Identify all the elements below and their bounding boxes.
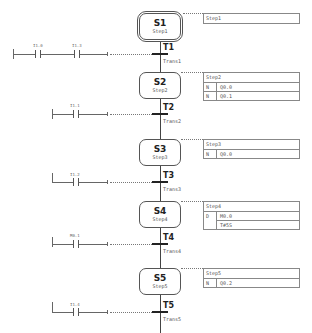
- action-row-group: D M0.0 T#5S: [204, 212, 299, 229]
- transition-name: Trans5: [163, 316, 181, 322]
- action-time: T#5S: [217, 221, 299, 229]
- ladder-wire: [52, 114, 107, 115]
- transition-bar-t3[interactable]: [152, 181, 168, 183]
- action-header: Step3: [204, 140, 299, 150]
- ladder-end: [107, 112, 108, 116]
- action-operand: Q0.1: [217, 92, 232, 100]
- action-block-s3[interactable]: Step3 N Q0.0: [203, 139, 300, 159]
- transition-name: Trans1: [163, 58, 181, 64]
- step-id: S2: [140, 77, 180, 87]
- action-block-s1[interactable]: Step1: [203, 13, 300, 24]
- transition-connector: [110, 312, 152, 313]
- step-name: Step2: [140, 87, 180, 94]
- action-header: Step4: [204, 202, 299, 212]
- action-row: N Q0.0: [204, 83, 299, 92]
- ladder-wire: [52, 182, 107, 183]
- action-header: Step5: [204, 269, 299, 279]
- action-block-s5[interactable]: Step5 N Q0.2: [203, 268, 300, 288]
- transition-id: T5: [163, 301, 174, 310]
- contact-label: I1.0: [33, 43, 43, 48]
- action-block-s4[interactable]: Step4 D M0.0 T#5S: [203, 201, 300, 230]
- action-connector: [181, 201, 203, 202]
- action-qualifier: N: [204, 92, 217, 100]
- contact-label: I1.1: [70, 103, 80, 108]
- transition-name: Trans4: [163, 248, 181, 254]
- ladder-end: [107, 310, 108, 314]
- contact-no[interactable]: [73, 178, 79, 186]
- action-row: N Q0.2: [204, 279, 299, 287]
- step-name: Step4: [140, 216, 180, 223]
- contact-no[interactable]: [73, 110, 79, 118]
- contact-label: M0.1: [70, 233, 80, 238]
- action-qualifier: N: [204, 150, 217, 158]
- transition-bar-t1[interactable]: [152, 53, 168, 55]
- transition-id: T3: [163, 171, 174, 180]
- action-operand: Q0.0: [217, 150, 232, 158]
- ladder-end: [107, 52, 108, 56]
- ladder-wire: [13, 54, 107, 55]
- action-connector: [181, 268, 203, 269]
- transition-name: Trans3: [163, 186, 181, 192]
- step-name: Step3: [140, 154, 180, 161]
- step-s2[interactable]: S2 Step2: [139, 72, 181, 99]
- action-connector: [181, 72, 203, 73]
- contact-label: I1.2: [70, 172, 80, 177]
- transition-connector: [110, 54, 152, 55]
- transition-name: Trans2: [163, 118, 181, 124]
- ladder-end: [107, 242, 108, 246]
- transition-connector: [110, 244, 152, 245]
- contact-label: I1.4: [70, 302, 80, 307]
- transition-bar-t5[interactable]: [152, 311, 168, 313]
- ladder-wire: [52, 312, 107, 313]
- transition-id: T4: [163, 233, 174, 242]
- transition-connector: [110, 182, 152, 183]
- step-id: S4: [140, 206, 180, 216]
- step-id: S3: [140, 144, 180, 154]
- step-name: Step1: [140, 28, 180, 35]
- action-qualifier: N: [204, 279, 217, 287]
- transition-id: T2: [163, 103, 174, 112]
- step-s5[interactable]: S5 Step5: [139, 268, 181, 295]
- action-header: Step2: [204, 73, 299, 83]
- step-s4[interactable]: S4 Step4: [139, 201, 181, 228]
- contact-no[interactable]: [35, 50, 41, 58]
- action-header: Step1: [204, 14, 299, 23]
- action-row: N Q0.0: [204, 150, 299, 158]
- step-s1[interactable]: S1 Step1: [139, 13, 181, 40]
- action-row: N Q0.1: [204, 92, 299, 100]
- contact-label: I1.3: [72, 43, 82, 48]
- transition-id: T1: [163, 43, 174, 52]
- action-operand: Q0.2: [217, 279, 232, 287]
- transition-bar-t4[interactable]: [152, 243, 168, 245]
- contact-no[interactable]: [73, 308, 79, 316]
- power-rail: [52, 302, 53, 312]
- action-qualifier: N: [204, 83, 217, 91]
- ladder-wire: [52, 244, 107, 245]
- step-id: S1: [140, 18, 180, 28]
- action-operand: Q0.0: [217, 83, 232, 91]
- step-s3[interactable]: S3 Step3: [139, 139, 181, 166]
- action-qualifier: D: [204, 212, 217, 229]
- power-rail: [52, 237, 53, 247]
- step-id: S5: [140, 273, 180, 283]
- action-connector: [183, 13, 203, 14]
- action-block-s2[interactable]: Step2 N Q0.0 N Q0.1: [203, 72, 300, 101]
- transition-bar-t2[interactable]: [152, 113, 168, 115]
- step-name: Step5: [140, 283, 180, 290]
- action-connector: [181, 139, 203, 140]
- action-operand: M0.0: [217, 212, 299, 221]
- transition-connector: [110, 114, 152, 115]
- contact-no[interactable]: [73, 240, 79, 248]
- contact-no[interactable]: [74, 50, 80, 58]
- ladder-end: [107, 180, 108, 184]
